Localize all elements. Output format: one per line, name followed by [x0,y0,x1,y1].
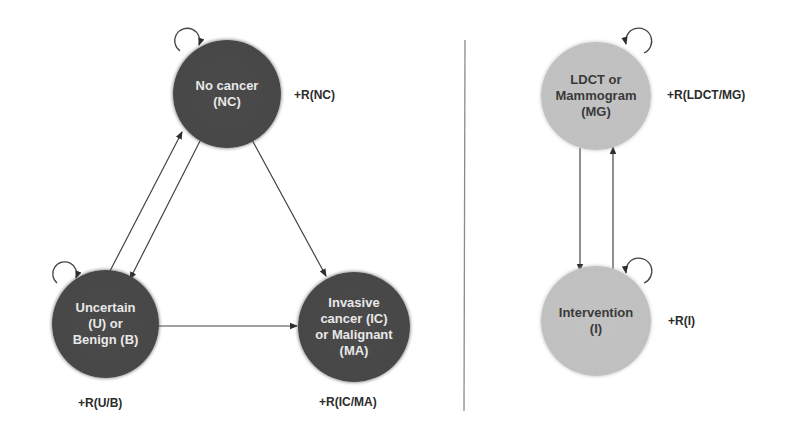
reward-uncertain-benign: +R(U/B) [78,396,122,410]
node-no-cancer-label: No cancer (NC) [192,78,263,110]
node-ldct-mammogram-label: LDCT or Mammogram (MG) [552,72,641,120]
edge-nc-to-icma [251,138,326,276]
node-invasive-malignant: Invasive cancer (IC) or Malignant (MA) [298,272,410,382]
markov-state-diagram: No cancer (NC) +R(NC) Uncertain (U) or B… [0,0,789,435]
node-intervention: Intervention (I) [541,266,651,376]
reward-ldct-mammogram: +R(LDCT/MG) [667,88,745,102]
node-invasive-malignant-label: Invasive cancer (IC) or Malignant (MA) [311,295,396,359]
edge-mg-self-loop [626,28,652,53]
node-uncertain-benign: Uncertain (U) or Benign (B) [52,270,159,378]
reward-no-cancer: +R(NC) [294,88,335,102]
node-uncertain-benign-label: Uncertain (U) or Benign (B) [69,300,143,348]
panel-divider [464,40,465,411]
node-intervention-label: Intervention (I) [555,305,637,337]
node-ldct-mammogram: LDCT or Mammogram (MG) [541,42,651,150]
edge-nc-to-ub [130,141,200,279]
reward-invasive-malignant: +R(IC/MA) [319,395,377,409]
edge-ub-to-nc [110,132,182,271]
node-no-cancer: No cancer (NC) [173,40,281,148]
reward-intervention: +R(I) [668,314,695,328]
edge-nc-self-loop [175,28,200,51]
